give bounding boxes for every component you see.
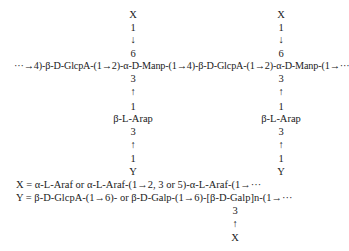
- col2-bot-pos3: 3: [278, 73, 283, 85]
- col1-up-arrow-icon: ↑: [130, 86, 135, 98]
- col1-top-pos1: 1: [130, 22, 135, 34]
- y-branch-pos3: 3: [232, 205, 237, 217]
- col1-bot-pos1: 1: [130, 101, 135, 113]
- col1-ara-pos3: 3: [130, 126, 135, 138]
- col1-down-arrow-icon: ↓: [130, 34, 135, 46]
- x-definition: X = α-L-Araf or α-L-Araf-(1→2, 3 or 5)-α…: [16, 179, 261, 191]
- backbone-chain: ···→4)-β-D-GlcpA-(1→2)-α-D-Manp-(1→4)-β-…: [14, 60, 349, 72]
- col2-bot-pos1: 1: [278, 101, 283, 113]
- col1-x-label: X: [129, 9, 137, 21]
- col2-up-arrow-icon-2: ↑: [278, 139, 283, 151]
- col1-y-label: Y: [129, 166, 137, 178]
- col2-y-label: Y: [277, 166, 285, 178]
- col2-top-pos6: 6: [278, 48, 283, 60]
- y-definition: Y = β-D-GlcpA-(1→6)- or β-D-Galp-(1→6)-[…: [16, 192, 292, 204]
- col2-y-pos1: 1: [278, 153, 283, 165]
- col1-up-arrow-icon-2: ↑: [130, 139, 135, 151]
- y-branch-x-label: X: [231, 232, 239, 244]
- col2-down-arrow-icon: ↓: [278, 34, 283, 46]
- col2-x-label: X: [277, 9, 285, 21]
- col2-ara-pos3: 3: [278, 126, 283, 138]
- col1-top-pos6: 6: [130, 48, 135, 60]
- y-branch-up-arrow-icon: ↑: [232, 218, 237, 230]
- col1-y-pos1: 1: [130, 153, 135, 165]
- col2-arabinose: β-L-Arap: [261, 113, 301, 125]
- col2-top-pos1: 1: [278, 22, 283, 34]
- col1-bot-pos3: 3: [130, 73, 135, 85]
- col2-up-arrow-icon: ↑: [278, 86, 283, 98]
- col1-arabinose: β-L-Arap: [113, 113, 153, 125]
